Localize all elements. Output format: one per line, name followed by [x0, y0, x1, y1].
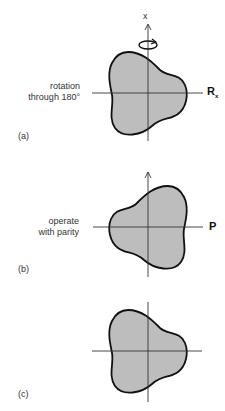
operator-label-p: P — [209, 221, 216, 232]
operation-text-a-line1: rotation — [10, 81, 80, 92]
panel-label-c: (c) — [18, 389, 29, 400]
panel-b — [93, 172, 203, 277]
panel-c — [92, 302, 202, 402]
operation-text-a-line2: through 180° — [10, 92, 80, 103]
operation-text-b: operate with parity — [10, 216, 79, 238]
operation-text-b-line1: operate — [10, 216, 79, 227]
panel-label-a: (a) — [18, 131, 29, 142]
operation-text-b-line2: with parity — [10, 227, 79, 238]
operator-label-rx: Rx — [207, 86, 218, 102]
operation-text-a: rotation through 180° — [10, 81, 80, 103]
diagram-canvas — [0, 0, 225, 411]
panel-label-b: (b) — [18, 264, 29, 275]
panel-a — [92, 24, 203, 141]
axis-label-x: x — [143, 11, 148, 22]
operator-rx-subscript: x — [215, 93, 218, 99]
operator-rx-main: R — [207, 85, 215, 97]
